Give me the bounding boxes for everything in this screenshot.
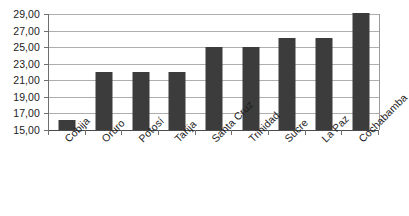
x-tick-mark	[85, 130, 86, 135]
y-tick-label: 19,00	[13, 91, 40, 103]
bar	[132, 72, 149, 130]
y-tick-label: 23,00	[13, 58, 40, 70]
x-tick-mark	[231, 130, 232, 135]
bar	[242, 47, 259, 130]
x-tick-mark	[305, 130, 306, 135]
y-tick-label: 17,00	[13, 107, 40, 119]
x-tick-mark	[48, 130, 49, 135]
x-tick-mark	[121, 130, 122, 135]
x-axis: CobijaOruroPotosíTarijaSanta CruzTrinida…	[48, 136, 378, 216]
y-tick-label: 29,00	[13, 8, 40, 20]
bar	[352, 13, 369, 130]
x-tick-mark	[341, 130, 342, 135]
y-tick-label: 25,00	[13, 41, 40, 53]
bars-layer	[49, 14, 379, 130]
bar	[169, 72, 186, 130]
bar	[316, 38, 333, 130]
bar	[96, 72, 113, 130]
x-tick-mark	[195, 130, 196, 135]
y-tick-label: 27,00	[13, 25, 40, 37]
y-tick-label: 21,00	[13, 74, 40, 86]
y-tick-label: 15,00	[13, 124, 40, 136]
bar	[206, 47, 223, 130]
y-axis: 15,0017,0019,0021,0023,0025,0027,0029,00	[0, 0, 46, 216]
plot-area	[48, 14, 380, 130]
